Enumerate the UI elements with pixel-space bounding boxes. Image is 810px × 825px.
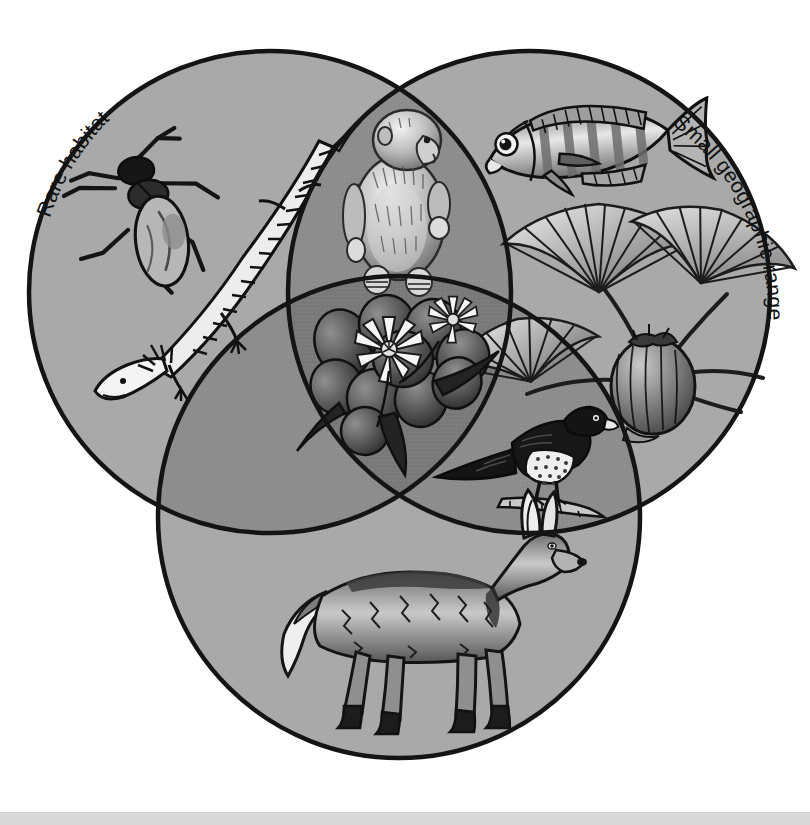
bottom-strip [0, 812, 810, 825]
